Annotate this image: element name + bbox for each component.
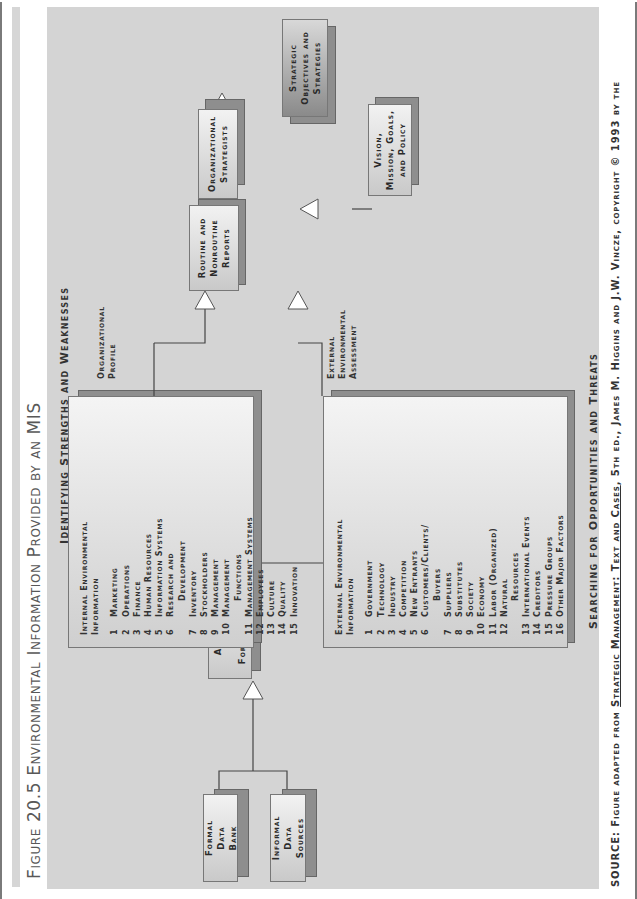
list-item-label: Marketing (109, 568, 120, 617)
list-item-label: Natural (499, 578, 510, 617)
list-item-number: 14 (277, 617, 288, 635)
list-item-number: 9 (465, 617, 476, 635)
external-info-header: External Environmental Information (334, 514, 356, 635)
list-item-label: Government (364, 560, 375, 617)
list-item-number: 12 (499, 617, 510, 635)
objectives-box: Strategic Objectives and Strategies (282, 19, 328, 117)
list-item-number: 14 (532, 617, 543, 635)
list-item: 6Customers/Clients/ (420, 514, 431, 635)
list-item-label: Society (465, 581, 476, 617)
list-item-label: Management Systems (244, 516, 255, 617)
list-item-label: Research and (165, 553, 176, 617)
list-item-label: Industry (387, 576, 398, 617)
list-item-label: Information Systems (154, 518, 165, 617)
list-item-number: 3 (387, 617, 398, 635)
list-item: 8Substitutes (454, 514, 465, 635)
formal-data-bank-box: Formal Data Bank (203, 794, 238, 882)
list-item-number: 8 (454, 617, 465, 635)
list-item-number: 5 (409, 617, 420, 635)
list-item-label: Innovation (289, 566, 300, 617)
caption-opportunities-threats: Searching for Opportunities and Threats (587, 353, 600, 629)
list-item-label: Human Resources (143, 533, 154, 617)
source-suffix: , 5th ed., James M. Higgins and J.W. Vin… (610, 81, 621, 485)
list-item: 13Culture (266, 516, 277, 635)
list-item-number: 16 (555, 617, 566, 635)
list-item: 13International Events (521, 514, 532, 635)
list-item: 1Marketing (109, 516, 120, 635)
list-item-label: Customers/Clients/ (420, 524, 431, 617)
list-item-number: 11 (488, 617, 499, 635)
external-rows: 1Government2Technology3Industry4Competit… (364, 514, 566, 635)
list-item-number: 4 (143, 617, 154, 635)
external-info-list: External Environmental Information 1Gove… (334, 514, 566, 635)
list-item: 3Finance (132, 516, 143, 635)
list-item-number: 10 (221, 617, 232, 635)
list-item: 9Management (210, 516, 221, 635)
formal-data-bank-label: Formal Data Bank (203, 795, 239, 881)
list-item-label: Pressure Groups (544, 536, 555, 617)
internal-info-header: Internal Environmental Information (79, 516, 101, 635)
vision-box: Vision, Mission, Goals, and Policy (368, 104, 412, 196)
informal-data-sources-label: Informal Data Sources (270, 795, 306, 881)
list-item-number: 10 (476, 617, 487, 635)
list-item: 12Natural (499, 514, 510, 635)
list-item: 10Economy (476, 514, 487, 635)
list-item: 2Technology (376, 514, 387, 635)
list-item: 4Human Resources (143, 516, 154, 635)
list-item-label: Economy (476, 576, 487, 617)
list-item-label: Inventory (188, 570, 199, 617)
list-item: Development (177, 516, 188, 635)
list-item-label: Creditors (532, 570, 543, 617)
list-item-label: Culture (266, 580, 277, 617)
list-item-label: Substitutes (454, 561, 465, 617)
vision-label: Vision, Mission, Goals, and Policy (372, 105, 408, 195)
list-item: 1Government (364, 514, 375, 635)
list-item-label: Functions (233, 553, 244, 617)
list-item-number (432, 617, 443, 635)
list-item: 7Inventory (188, 516, 199, 635)
list-item-number (510, 617, 521, 635)
list-item-label: Management (210, 559, 221, 617)
list-item-label: Technology (376, 562, 387, 617)
list-item: 2Operations (121, 516, 132, 635)
internal-rows: 1Marketing2Operations3Finance4Human Reso… (109, 516, 299, 635)
source-citation: SOURCE: Figure adapted from Strategic Ma… (610, 81, 621, 887)
list-item-number: 15 (289, 617, 300, 635)
list-item-label: Employees (255, 569, 266, 617)
list-item-number: 1 (109, 617, 120, 635)
source-book-title: Strategic Management: Text and Cases (610, 485, 621, 707)
list-item-label: Competition (398, 560, 409, 617)
informal-data-sources-box: Informal Data Sources (270, 794, 306, 882)
arrow-sources-to-analysis (243, 681, 263, 699)
external-info-box: External Environmental Information 1Gove… (323, 396, 568, 648)
reports-label: Routine and Nonroutine Reports (196, 206, 232, 290)
list-item-label: Development (177, 540, 188, 617)
list-item-number: 6 (420, 617, 431, 635)
list-item: 7Suppliers (443, 514, 454, 635)
list-item-number: 2 (376, 617, 387, 635)
list-item-label: Labor (Organized) (488, 528, 499, 617)
list-item: 11Labor (Organized) (488, 514, 499, 635)
internal-info-list: Internal Environmental Information 1Mark… (79, 516, 300, 635)
list-item-number: 7 (443, 617, 454, 635)
list-item: 3Industry (387, 514, 398, 635)
list-item-number: 15 (544, 617, 555, 635)
list-item: 5New Entrants (409, 514, 420, 635)
list-item-number: 11 (244, 617, 255, 635)
list-item-label: International Events (521, 516, 532, 617)
list-item: 9Society (465, 514, 476, 635)
reports-box: Routine and Nonroutine Reports (189, 205, 239, 291)
list-item-label: Buyers (432, 568, 443, 617)
list-item-label: Other Major Factors (555, 514, 566, 617)
list-item: 11Management Systems (244, 516, 255, 635)
list-item: 8Stockholders (199, 516, 210, 635)
external-assessment-label: External Environmental Assessment (326, 309, 359, 379)
list-item-number: 7 (188, 617, 199, 635)
list-item-label: Operations (121, 564, 132, 617)
list-item-number: 13 (266, 617, 277, 635)
list-item-label: Finance (132, 581, 143, 618)
list-item: 16Other Major Factors (555, 514, 566, 635)
list-item-label: Quality (277, 581, 288, 617)
list-item-number: 2 (121, 617, 132, 635)
